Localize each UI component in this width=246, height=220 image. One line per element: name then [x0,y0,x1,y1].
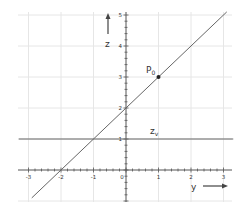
x-tick-label: -1 [91,174,96,180]
y-arrowhead-icon [222,184,228,189]
axes [18,12,232,202]
x-tick-label: 2 [189,174,193,180]
z-tick-label: 3 [119,74,123,80]
grid-lines [18,12,232,202]
coordinate-plot: -3-2-1012312345 z y P0 zv [0,0,246,220]
y-axis-label: y [191,182,197,192]
zv-sub: v [155,130,159,137]
x-tick-label: 1 [157,174,161,180]
x-tick-label: 0 [120,174,124,180]
z-tick-label: 5 [119,12,123,18]
x-tick-label: -2 [58,174,63,180]
point-p0-sub: 0 [151,69,155,76]
zv-label: zv [150,126,159,137]
z-arrowhead-icon [106,13,111,19]
z-tick-label: 2 [119,105,123,111]
point-p0-marker [157,75,161,79]
point-p0-label: P0 [146,65,155,76]
x-tick-label: 3 [222,174,226,180]
z-tick-label: 4 [119,43,123,49]
x-tick-label: -3 [26,174,32,180]
z-axis-label: z [105,39,110,49]
